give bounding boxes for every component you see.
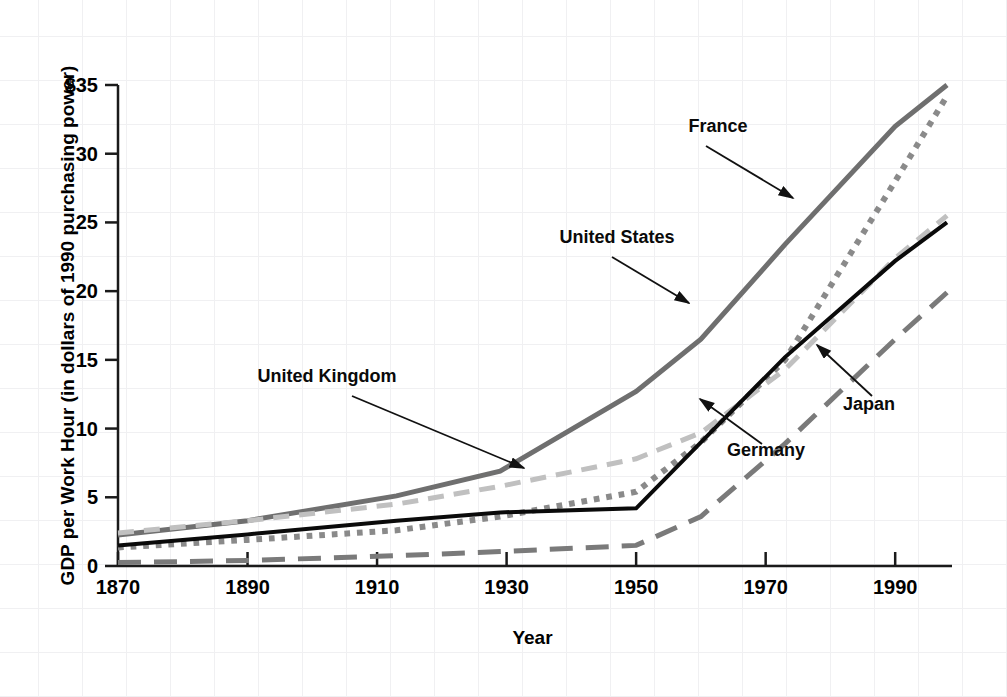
x-tick-label: 1950 (614, 576, 659, 598)
y-axis-title: GDP per Work Hour (in dollars of 1990 pu… (57, 66, 78, 586)
series-label-united-kingdom: United Kingdom (258, 366, 397, 386)
annotations: FranceUnited StatesUnited KingdomJapanGe… (258, 116, 896, 468)
y-tick-label: 5 (87, 486, 98, 508)
series-label-united-states: United States (559, 227, 674, 247)
x-tick-label: 1890 (225, 576, 270, 598)
y-tick-label: 25 (76, 211, 98, 233)
annotation-leader-france (706, 146, 793, 198)
gdp-per-work-hour-line-chart: 051015202530$351870189019101930195019701… (0, 0, 1007, 697)
x-tick-label: 1870 (96, 576, 141, 598)
annotation-leader-united-kingdom (352, 396, 524, 468)
x-axis-title: Year (512, 627, 553, 648)
series-group (118, 85, 947, 563)
annotation-leader-germany (700, 399, 762, 444)
series-line-germany (118, 222, 947, 545)
chart-canvas: 051015202530$351870189019101930195019701… (0, 0, 1007, 697)
series-line-united-kingdom (118, 216, 947, 533)
x-tick-label: 1910 (355, 576, 400, 598)
y-tick-label: 0 (87, 555, 98, 577)
y-tick-label: 20 (76, 280, 98, 302)
y-tick-label: 30 (76, 143, 98, 165)
x-tick-label: 1930 (484, 576, 529, 598)
x-axis-ticks: 1870189019101930195019701990 (96, 552, 918, 598)
series-line-united-states (118, 85, 947, 535)
x-tick-label: 1970 (743, 576, 788, 598)
x-tick-label: 1990 (873, 576, 918, 598)
y-tick-label: 10 (76, 418, 98, 440)
series-label-france: France (688, 116, 747, 136)
annotation-leader-united-states (612, 257, 689, 303)
series-label-japan: Japan (843, 394, 895, 414)
y-tick-label: 15 (76, 349, 98, 371)
series-label-germany: Germany (727, 440, 805, 460)
